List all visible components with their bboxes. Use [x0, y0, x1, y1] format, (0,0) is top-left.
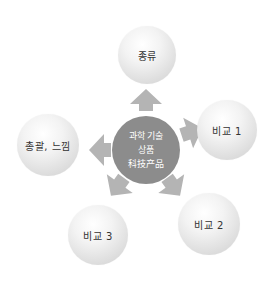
node-bottom-right: 비교 2 — [178, 193, 240, 255]
node-label: 비교 1 — [212, 123, 242, 138]
node-label: 종류 — [138, 48, 157, 63]
arrow-icon-left — [89, 134, 111, 166]
node-label: 비교 3 — [83, 228, 113, 243]
node-right: 비교 1 — [197, 100, 257, 160]
node-left: 총괄, 느낌 — [17, 114, 79, 176]
diagram-canvas: 과학 기술 상품 科技产品 종류 비교 1 비교 2 비교 3 총괄, 느낌 — [0, 0, 276, 291]
node-bottom-left: 비교 3 — [68, 205, 128, 265]
node-top: 종류 — [118, 26, 176, 84]
center-line-3: 科技产品 — [128, 157, 164, 171]
node-label: 비교 2 — [194, 217, 224, 232]
arrow-icon-top — [130, 89, 162, 111]
center-line-2: 상품 — [138, 143, 154, 157]
center-line-1: 과학 기술 — [129, 129, 164, 143]
center-hub: 과학 기술 상품 科技产品 — [112, 116, 180, 184]
node-label: 총괄, 느낌 — [25, 138, 70, 153]
